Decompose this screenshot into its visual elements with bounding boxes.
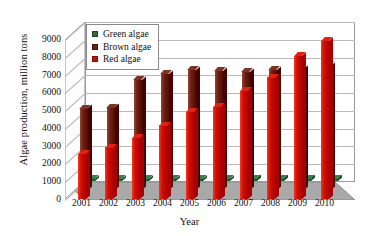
- x-axis-title: Year: [0, 216, 379, 227]
- y-tick-label: 2000: [27, 159, 61, 168]
- legend-swatch-icon: [92, 56, 98, 62]
- y-tick-label: 5000: [27, 106, 61, 115]
- algae-production-bar-chart: Algae production, million tons 900080007…: [0, 0, 379, 236]
- bar-side: [221, 103, 225, 199]
- bar-face: [105, 147, 113, 199]
- legend-item-red-algae: Red algae: [92, 53, 151, 66]
- bar-red-algae-2007: [240, 91, 248, 199]
- bar-face: [159, 125, 167, 199]
- y-tick-label: 6000: [27, 88, 61, 97]
- bar-side: [329, 37, 333, 199]
- bar-side: [86, 150, 90, 199]
- bar-face: [78, 154, 86, 199]
- bar-red-algae-2003: [132, 138, 140, 199]
- chart-legend: Green algaeBrown algaeRed algae: [86, 24, 159, 70]
- x-tick-label: 2005: [176, 198, 203, 208]
- x-axis-tick-labels: 2001200220032004200520062007200820092010: [65, 198, 355, 214]
- x-tick-label: 2009: [284, 198, 311, 208]
- legend-swatch-icon: [92, 44, 98, 50]
- bar-face: [186, 112, 194, 199]
- legend-label: Brown algae: [103, 41, 151, 54]
- bar-red-algae-2010: [321, 41, 329, 199]
- bar-red-algae-2009: [294, 56, 302, 199]
- bar-face: [267, 77, 275, 199]
- legend-label: Red algae: [103, 53, 141, 66]
- bar-red-algae-2001: [78, 154, 86, 199]
- bar-side: [167, 122, 171, 199]
- legend-item-brown-algae: Brown algae: [92, 41, 151, 54]
- legend-swatch-icon: [92, 31, 98, 37]
- y-axis-tick-labels: 9000800070006000500040003000200010000: [27, 0, 61, 236]
- y-tick-label: 1000: [27, 177, 61, 186]
- bar-red-algae-2002: [105, 147, 113, 199]
- x-tick-label: 2004: [149, 198, 176, 208]
- legend-item-green-algae: Green algae: [92, 28, 151, 41]
- legend-label: Green algae: [103, 28, 149, 41]
- bar-red-algae-2005: [186, 112, 194, 199]
- bar-side: [113, 144, 117, 199]
- y-tick-label: 7000: [27, 71, 61, 80]
- x-tick-label: 2006: [203, 198, 230, 208]
- x-tick-label: 2002: [95, 198, 122, 208]
- x-tick-label: 2003: [122, 198, 149, 208]
- bar-red-algae-2004: [159, 125, 167, 199]
- bar-side: [248, 87, 252, 199]
- y-tick-label: 4000: [27, 124, 61, 133]
- y-tick-label: 9000: [27, 35, 61, 44]
- bar-face: [294, 56, 302, 199]
- x-tick-label: 2008: [257, 198, 284, 208]
- y-tick-label: 3000: [27, 142, 61, 151]
- x-tick-label: 2007: [230, 198, 257, 208]
- bar-side: [140, 134, 144, 199]
- bar-face: [240, 91, 248, 199]
- bar-red-algae-2006: [213, 107, 221, 199]
- y-tick-label: 0: [27, 195, 61, 204]
- bar-red-algae-2008: [267, 77, 275, 199]
- bar-side: [302, 52, 306, 199]
- x-tick-label: 2010: [311, 198, 338, 208]
- bar-face: [213, 107, 221, 199]
- bar-side: [275, 74, 279, 199]
- x-tick-label: 2001: [68, 198, 95, 208]
- y-tick-label: 8000: [27, 53, 61, 62]
- bar-face: [321, 41, 329, 199]
- bar-face: [132, 138, 140, 199]
- bar-side: [194, 108, 198, 199]
